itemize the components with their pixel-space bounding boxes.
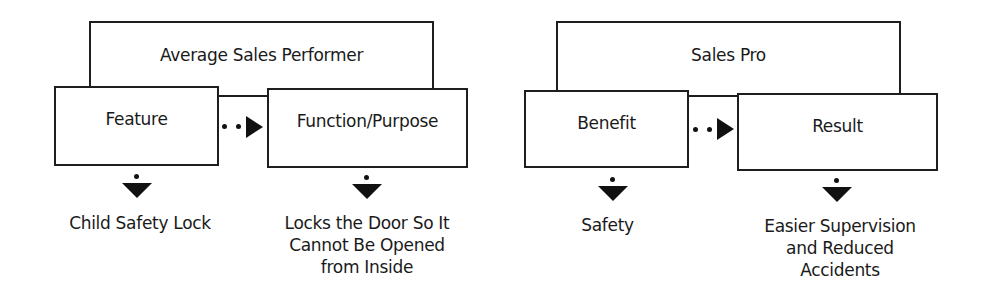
result-example-label: Easier Supervision and Reduced Accidents <box>725 215 955 281</box>
sales-pro-box: Sales Pro <box>556 21 901 97</box>
result-example-line-3: Accidents <box>725 259 955 281</box>
right-connector-line <box>686 95 738 97</box>
function-example-label: Locks the Door So It Cannot Be Opened fr… <box>252 212 482 278</box>
feature-label: Feature <box>105 109 167 164</box>
function-example-line-3: from Inside <box>252 256 482 278</box>
function-purpose-box: Function/Purpose <box>267 88 468 168</box>
left-connector-line <box>216 95 268 97</box>
result-example-line-1: Easier Supervision <box>725 215 955 237</box>
function-example-line-1: Locks the Door So It <box>252 212 482 234</box>
benefit-example-label: Safety <box>525 214 690 236</box>
function-example-line-2: Cannot Be Opened <box>252 234 482 256</box>
feature-example-text: Child Safety Lock <box>69 213 211 233</box>
function-purpose-label: Function/Purpose <box>297 111 438 166</box>
benefit-box: Benefit <box>524 90 689 168</box>
sales-pro-label: Sales Pro <box>691 45 766 95</box>
benefit-example-text: Safety <box>581 215 634 235</box>
result-example-line-2: and Reduced <box>725 237 955 259</box>
feature-box: Feature <box>54 86 219 166</box>
benefit-label: Benefit <box>577 113 636 166</box>
result-box: Result <box>737 93 938 171</box>
result-label: Result <box>812 116 863 169</box>
feature-example-label: Child Safety Lock <box>40 212 240 234</box>
